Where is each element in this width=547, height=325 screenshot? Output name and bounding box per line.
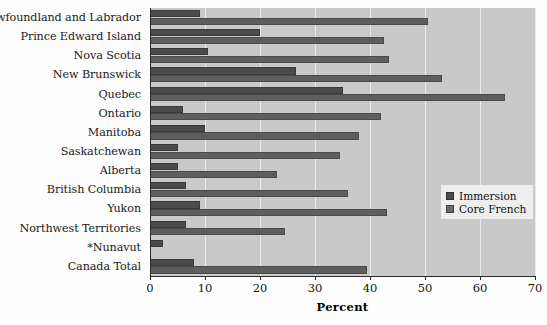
- bar-row: [150, 27, 535, 46]
- x-tick: [480, 276, 481, 280]
- bar-immersion: [150, 201, 200, 208]
- bar-core-french: [150, 266, 367, 273]
- x-axis-title: Percent: [150, 300, 535, 314]
- bar-immersion: [150, 10, 200, 17]
- bar-immersion: [150, 29, 260, 36]
- bar-core-french: [150, 94, 505, 101]
- chart-legend: Immersion Core French: [441, 185, 533, 219]
- bar-core-french: [150, 228, 285, 235]
- x-tick: [315, 276, 316, 280]
- bar-core-french: [150, 18, 428, 25]
- category-label: Quebec: [0, 85, 146, 104]
- category-label: Saskatchewan: [0, 142, 146, 161]
- x-tick: [425, 276, 426, 280]
- bar-immersion: [150, 67, 296, 74]
- bar-immersion: [150, 221, 186, 228]
- x-tick: [150, 276, 151, 280]
- bar-core-french: [150, 152, 340, 159]
- bar-row: [150, 123, 535, 142]
- plot-area: [150, 8, 535, 276]
- bar-row: [150, 238, 535, 257]
- x-axis-line: [150, 276, 536, 277]
- bar-row: [150, 257, 535, 276]
- core-french-swatch-icon: [446, 205, 454, 213]
- x-tick: [535, 276, 536, 280]
- bar-immersion: [150, 259, 194, 266]
- x-tick-label: 10: [198, 281, 213, 295]
- bar-core-french: [150, 56, 389, 63]
- bar-immersion: [150, 48, 208, 55]
- x-tick-label: 0: [146, 281, 153, 295]
- category-axis-labels: Newfoundland and LabradorPrince Edward I…: [0, 8, 146, 276]
- bar-row: [150, 104, 535, 123]
- y-axis-line: [150, 8, 151, 280]
- category-label: Prince Edward Island: [0, 27, 146, 46]
- bar-row: [150, 8, 535, 27]
- bar-row: [150, 219, 535, 238]
- bar-immersion: [150, 125, 205, 132]
- x-tick-label: 20: [253, 281, 268, 295]
- category-label: Alberta: [0, 161, 146, 180]
- category-label: British Columbia: [0, 180, 146, 199]
- bar-core-french: [150, 190, 348, 197]
- bar-immersion: [150, 182, 186, 189]
- category-label: New Brunswick: [0, 65, 146, 84]
- legend-item-core-french: Core French: [446, 202, 526, 215]
- bar-core-french: [150, 113, 381, 120]
- bar-chart: Newfoundland and LabradorPrince Edward I…: [0, 0, 547, 325]
- category-label: Newfoundland and Labrador: [0, 8, 146, 27]
- bar-immersion: [150, 106, 183, 113]
- bar-immersion: [150, 87, 343, 94]
- category-label: Canada Total: [0, 257, 146, 276]
- x-tick: [260, 276, 261, 280]
- bar-row: [150, 46, 535, 65]
- legend-item-immersion: Immersion: [446, 189, 526, 202]
- bar-row: [150, 65, 535, 84]
- bar-immersion: [150, 144, 178, 151]
- bar-row: [150, 161, 535, 180]
- x-tick: [205, 276, 206, 280]
- bar-row: [150, 85, 535, 104]
- category-label: *Nunavut: [0, 238, 146, 257]
- x-tick-label: 70: [528, 281, 543, 295]
- bar-core-french: [150, 171, 277, 178]
- bar-row: [150, 142, 535, 161]
- category-label: Northwest Territories: [0, 219, 146, 238]
- x-tick-label: 50: [418, 281, 433, 295]
- legend-label-core-french: Core French: [459, 203, 526, 215]
- category-label: Ontario: [0, 104, 146, 123]
- bar-immersion: [150, 240, 163, 247]
- bar-core-french: [150, 75, 442, 82]
- x-tick-label: 30: [308, 281, 323, 295]
- x-tick-label: 60: [473, 281, 488, 295]
- immersion-swatch-icon: [446, 192, 454, 200]
- x-tick-label: 40: [363, 281, 378, 295]
- category-label: Nova Scotia: [0, 46, 146, 65]
- bar-immersion: [150, 163, 178, 170]
- category-label: Yukon: [0, 199, 146, 218]
- bar-core-french: [150, 209, 387, 216]
- legend-label-immersion: Immersion: [459, 190, 517, 202]
- x-tick: [370, 276, 371, 280]
- category-label: Manitoba: [0, 123, 146, 142]
- gridline: [535, 8, 536, 276]
- bar-core-french: [150, 132, 359, 139]
- bar-core-french: [150, 37, 384, 44]
